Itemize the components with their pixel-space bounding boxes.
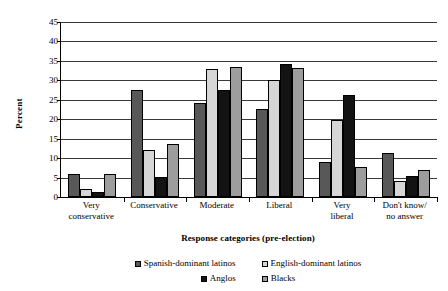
bar [80, 189, 92, 197]
y-axis-tick-label: 15 [49, 134, 58, 143]
x-axis-tick-label: Moderate [185, 200, 248, 228]
bar [268, 80, 280, 197]
x-axis-tick-label: Liberal [248, 200, 311, 228]
x-axis-tick-label: Veryliberal [311, 200, 374, 228]
x-axis-tick-label-line: Conservative [123, 200, 186, 211]
y-axis-tick-label: 20 [49, 115, 58, 124]
bar-chart-figure: Percent 051015202530354045 Veryconservat… [0, 0, 448, 291]
legend-swatch-icon [135, 261, 141, 267]
y-axis-tick-label: 10 [49, 154, 58, 163]
x-axis-tick-label-line: Don't know/ [373, 200, 436, 211]
legend-row-top: Spanish-dominant latinosEnglish-dominant… [60, 256, 436, 271]
bar [280, 64, 292, 197]
bar [394, 181, 406, 197]
plot-area: 051015202530354045 [60, 22, 437, 198]
bar [319, 162, 331, 197]
x-axis-tick-label-line: liberal [311, 211, 374, 222]
x-axis-tick-label-line: no answer [373, 211, 436, 222]
legend-swatch-icon [201, 276, 207, 282]
bar [155, 177, 167, 197]
x-axis-tick-label-line: Very [311, 200, 374, 211]
bar-groups [61, 22, 437, 197]
x-axis-tick [437, 197, 438, 202]
legend-item[interactable]: Anglos [201, 274, 236, 283]
bar [406, 176, 418, 197]
x-axis-tick-label-line: Moderate [185, 200, 248, 211]
bar-group [61, 22, 124, 197]
y-axis-tick-label: 35 [49, 56, 58, 65]
x-axis-title: Response categories (pre-election) [60, 233, 436, 243]
legend-swatch-icon [262, 261, 268, 267]
legend-label: Anglos [210, 274, 236, 283]
legend-row-bottom: AnglosBlacks [60, 271, 436, 286]
x-axis-tick-label: Don't know/no answer [373, 200, 436, 228]
bar [230, 67, 242, 197]
bar [143, 150, 155, 197]
legend-label: English-dominant latinos [271, 259, 362, 268]
x-axis-tick-label-line: Liberal [248, 200, 311, 211]
bar [206, 69, 218, 197]
x-axis-tick-label: Conservative [123, 200, 186, 228]
y-axis-tick-label: 40 [49, 37, 58, 46]
y-axis-title: Percent [12, 84, 26, 144]
bar-group [374, 22, 437, 197]
bar-group [312, 22, 375, 197]
y-axis-tick-label: 30 [49, 76, 58, 85]
bar [131, 90, 143, 197]
bar [218, 90, 230, 197]
bar-group [186, 22, 249, 197]
x-axis-tick-label-line: Very [60, 200, 123, 211]
y-axis-tick-label: 45 [49, 18, 58, 27]
y-axis-tick-label: 0 [54, 193, 59, 202]
legend-item[interactable]: Blacks [262, 274, 296, 283]
bar-group [124, 22, 187, 197]
bar [292, 68, 304, 197]
legend-label: Blacks [271, 274, 296, 283]
bar [331, 120, 343, 197]
x-axis-tick-label: Veryconservative [60, 200, 123, 228]
bar [355, 167, 367, 197]
bar [343, 95, 355, 197]
y-axis-tick-label: 25 [49, 95, 58, 104]
x-axis-tick-labels: VeryconservativeConservativeModerateLibe… [60, 200, 436, 228]
bar [68, 174, 80, 197]
y-axis-tick-label: 5 [54, 173, 59, 182]
bar [92, 192, 104, 197]
x-axis-tick-label-line: conservative [60, 211, 123, 222]
bar [104, 174, 116, 197]
bar [382, 153, 394, 197]
bar [256, 109, 268, 197]
bar [418, 170, 430, 197]
bar-group [249, 22, 312, 197]
bar [194, 103, 206, 197]
bar [167, 144, 179, 197]
legend-item[interactable]: English-dominant latinos [262, 259, 362, 268]
legend-item[interactable]: Spanish-dominant latinos [135, 259, 236, 268]
legend-swatch-icon [262, 276, 268, 282]
legend-label: Spanish-dominant latinos [144, 259, 236, 268]
legend: Spanish-dominant latinosEnglish-dominant… [60, 256, 436, 286]
